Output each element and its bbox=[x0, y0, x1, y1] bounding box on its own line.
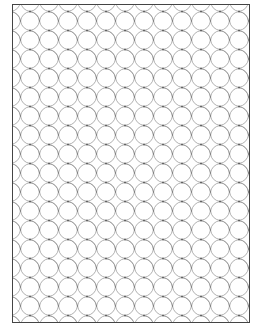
star-lattice-pattern bbox=[13, 5, 249, 322]
pattern-sheet bbox=[12, 4, 250, 323]
pattern-fill bbox=[13, 5, 249, 322]
